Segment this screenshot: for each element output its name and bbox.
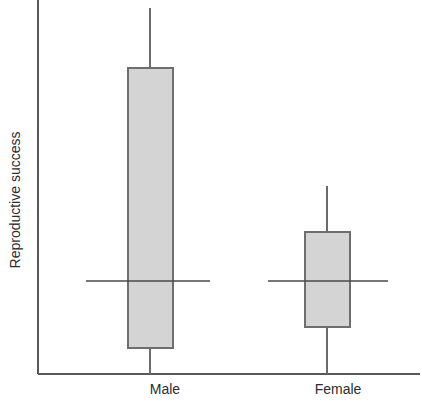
x-tick-label-female: Female [315, 381, 362, 397]
x-tick-label-male: Male [150, 381, 181, 397]
y-axis-label: Reproductive success [7, 132, 23, 269]
boxplot-figure: Male Female Reproductive success [0, 0, 422, 412]
boxplot-chart: Male Female Reproductive success [0, 0, 422, 412]
box-group-male [86, 8, 210, 374]
box-group-female [268, 186, 388, 374]
female-box [305, 232, 350, 327]
male-box [128, 68, 173, 348]
